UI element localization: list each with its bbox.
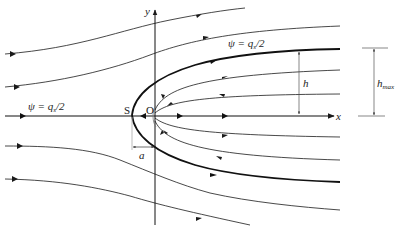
origin-label: O (146, 105, 154, 116)
psi-axis-label: ψ = qs/2 (28, 101, 65, 114)
half-body-flow-diagram: y x S O ψ = qs/2 ψ = qs/2 h hmax a (0, 0, 401, 230)
outer-streamline-arrows-lower (12, 143, 202, 221)
outer-streamlines-upper (5, 8, 340, 87)
psi-upper-label: ψ = qs/2 (228, 38, 265, 51)
inner-streamline-arrows (160, 76, 228, 160)
outer-streamline-arrows-upper (10, 14, 209, 90)
hmax-label: hmax (377, 78, 394, 91)
a-label: a (139, 150, 145, 161)
y-axis-label: y (145, 6, 150, 17)
dividing-streamline-arrows (210, 60, 217, 177)
h-label: h (303, 78, 309, 89)
stagnation-point-label: S (124, 105, 130, 116)
inner-streamlines (155, 70, 340, 160)
x-axis-label: x (336, 111, 341, 122)
